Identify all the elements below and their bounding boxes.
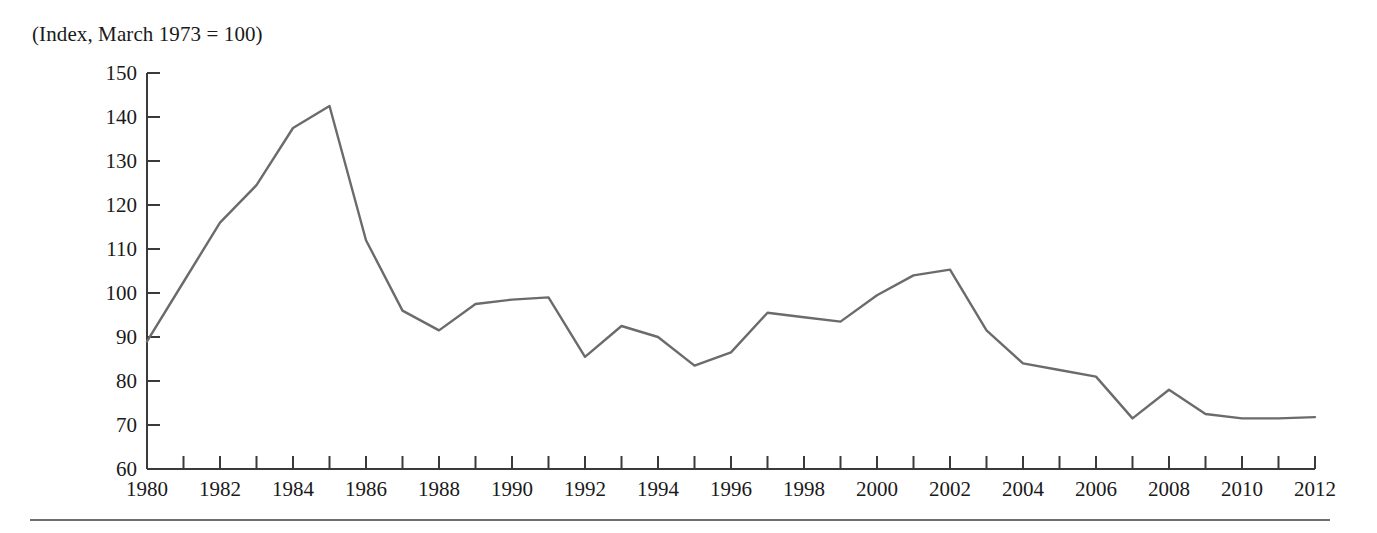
chart-svg xyxy=(0,0,1377,533)
x-axis-tick-label: 2006 xyxy=(1075,477,1117,502)
y-axis-tick-label: 140 xyxy=(85,105,137,130)
x-axis-tick-label: 2010 xyxy=(1221,477,1263,502)
y-axis-tick-label: 150 xyxy=(85,61,137,86)
x-axis-tick-label: 1998 xyxy=(783,477,825,502)
y-axis-tick-label: 80 xyxy=(85,369,137,394)
plot-area: 6070809010011012013014015019801982198419… xyxy=(0,0,1377,533)
y-axis xyxy=(147,73,160,469)
x-axis-tick-label: 1982 xyxy=(199,477,241,502)
x-axis-tick-label: 2004 xyxy=(1002,477,1044,502)
x-axis-tick-label: 1984 xyxy=(272,477,314,502)
x-axis-tick-label: 2000 xyxy=(856,477,898,502)
x-axis-tick-label: 2002 xyxy=(929,477,971,502)
x-axis-tick-label: 1988 xyxy=(418,477,460,502)
figure-container: (Index, March 1973 = 100) 60708090100110… xyxy=(0,0,1377,533)
x-axis-tick-label: 2008 xyxy=(1148,477,1190,502)
y-axis-tick-label: 110 xyxy=(85,237,137,262)
x-axis-tick-label: 2012 xyxy=(1294,477,1336,502)
y-axis-tick-label: 120 xyxy=(85,193,137,218)
x-axis-tick-label: 1992 xyxy=(564,477,606,502)
y-axis-tick-label: 130 xyxy=(85,149,137,174)
x-axis-tick-label: 1996 xyxy=(710,477,752,502)
y-axis-tick-label: 90 xyxy=(85,325,137,350)
x-axis-tick-label: 1980 xyxy=(126,477,168,502)
x-axis-tick-label: 1986 xyxy=(345,477,387,502)
y-axis-tick-label: 100 xyxy=(85,281,137,306)
x-axis-tick-label: 1994 xyxy=(637,477,679,502)
data-series-line xyxy=(147,106,1315,418)
footer-rule xyxy=(30,519,1330,521)
y-axis-tick-label: 70 xyxy=(85,413,137,438)
x-axis xyxy=(147,456,1315,469)
x-axis-tick-label: 1990 xyxy=(491,477,533,502)
